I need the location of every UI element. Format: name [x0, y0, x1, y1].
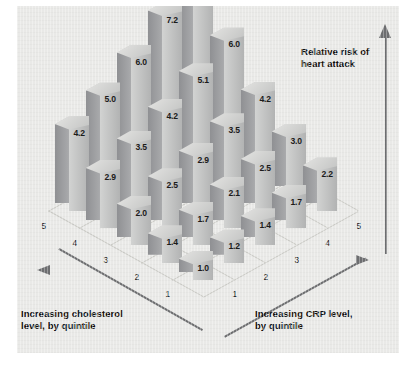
x-axis-label: Increasing CRP level, by quintile — [255, 308, 395, 333]
bar-value-label: 1.7 — [198, 214, 209, 224]
y-tick-1: 1 — [166, 290, 171, 299]
x-axis-arrow-icon — [356, 255, 369, 265]
bar-value-label: 6.0 — [136, 57, 147, 67]
bar-value-label: 2.9 — [198, 155, 209, 165]
y-tick-4: 4 — [73, 239, 78, 248]
bar-value-label: 1.4 — [260, 220, 271, 230]
y-axis-arrow-icon — [37, 265, 50, 275]
x-tick-5: 5 — [357, 222, 362, 231]
x-tick-2: 2 — [264, 273, 269, 282]
z-axis-arrow-icon — [379, 24, 391, 38]
y-tick-2: 2 — [135, 273, 140, 282]
bar-value-label: 2.1 — [229, 188, 240, 198]
bar-value-label: 2.5 — [167, 180, 178, 190]
bar-value-label: 1.4 — [167, 237, 178, 247]
bar-value-label: 3.5 — [229, 125, 240, 135]
bar-value-label: 1.2 — [229, 241, 240, 251]
figure-3d-bar-chart: 8.77.26.05.04.26.05.14.23.52.94.23.52.92… — [0, 0, 411, 368]
plot-panel: 8.77.26.05.04.26.05.14.23.52.94.23.52.92… — [17, 6, 399, 353]
bar-value-label: 7.2 — [167, 15, 178, 25]
y-tick-3: 3 — [104, 256, 109, 265]
bar-value-label: 5.0 — [105, 94, 116, 104]
bar-value-label: 5.1 — [198, 75, 209, 85]
z-axis-label: Relative risk of heart attack — [301, 46, 399, 71]
bar-value-label: 2.0 — [136, 208, 147, 218]
bar-value-label: 3.0 — [291, 136, 302, 146]
bar-face-left — [55, 117, 69, 204]
bar-value-label: 6.0 — [229, 39, 240, 49]
bar-value-label: 4.2 — [167, 111, 178, 121]
x-tick-4: 4 — [326, 239, 331, 248]
bar-value-label: 2.9 — [105, 172, 116, 182]
x-tick-1: 1 — [233, 290, 238, 299]
bar-value-label: 2.5 — [260, 163, 271, 173]
bar-value-label: 3.5 — [136, 142, 147, 152]
y-axis-label: Increasing cholesterol level, by quintil… — [21, 308, 171, 333]
bar-value-label: 2.2 — [322, 169, 333, 179]
x-tick-3: 3 — [295, 256, 300, 265]
bar-value-label: 1.7 — [291, 197, 302, 207]
bar-value-label: 4.2 — [74, 128, 85, 138]
y-tick-5: 5 — [42, 222, 47, 231]
bar-value-label: 4.2 — [260, 94, 271, 104]
bar-value-label: 1.0 — [198, 263, 209, 273]
